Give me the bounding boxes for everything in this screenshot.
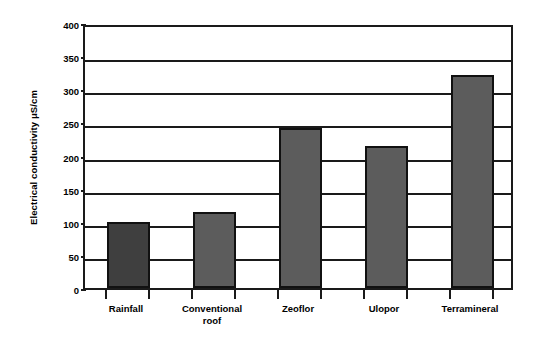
x-axis-tick-mark [148,290,150,299]
bar [451,75,494,288]
x-axis-tick-mark [449,290,451,299]
x-axis-tick-mark [191,290,193,299]
x-axis-tick-mark [406,290,408,299]
bar [279,128,322,288]
gridline [85,60,511,62]
x-axis-category-label-line: Ulopor [341,303,427,315]
x-axis-category-label-line: Rainfall [83,303,169,315]
bar [365,146,408,288]
bar [193,212,236,288]
x-axis-category-label: Ulopor [341,303,427,315]
y-axis-tick-label: 0 [49,285,79,296]
y-axis-ticks: 400350300250200150100500 [45,25,79,290]
x-axis-category-label-line: roof [169,315,255,327]
y-axis-tick-label: 150 [49,185,79,196]
x-axis-category-label: Conventionalroof [169,303,255,327]
y-axis-tick-label: 300 [49,86,79,97]
x-axis-tick-mark [492,290,494,299]
x-axis-category-label-line: Conventional [169,303,255,315]
y-axis-title: Electrical conductivity μS/cm [22,25,44,290]
bar [107,222,150,288]
x-axis-category-label-line: Terramineral [427,303,513,315]
x-axis-category-label: Rainfall [83,303,169,315]
gridline [85,93,511,95]
x-axis-tick-mark [234,290,236,299]
x-axis-tick-mark [363,290,365,299]
x-axis-tick-mark [320,290,322,299]
x-axis-labels: RainfallConventionalroofZeoflorUloporTer… [83,303,513,343]
x-axis-category-label: Terramineral [427,303,513,315]
y-axis-tick-label: 400 [49,20,79,31]
y-axis-tick-label: 50 [49,251,79,262]
x-axis-tick-mark [277,290,279,299]
y-axis-tick-label: 350 [49,53,79,64]
x-axis-category-label-line: Zeoflor [255,303,341,315]
y-axis-tick-label: 100 [49,218,79,229]
y-axis-tick-label: 200 [49,152,79,163]
x-axis-category-label: Zeoflor [255,303,341,315]
bar-chart: Electrical conductivity μS/cm 4003503002… [0,0,543,345]
plot-area [83,25,513,290]
x-axis-ticks [83,290,513,300]
y-axis-tick-label: 250 [49,119,79,130]
x-axis-tick-mark [105,290,107,299]
